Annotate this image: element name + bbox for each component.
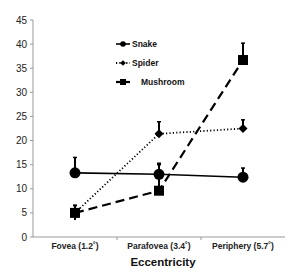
data-point-diamond	[155, 129, 164, 138]
data-point-square	[154, 186, 164, 196]
legend-item-snake: Snake	[116, 39, 157, 49]
legend-marker-square	[120, 79, 126, 85]
y-tick-label: 0	[21, 232, 27, 243]
x-tick-label: Fovea (1.2˚)	[51, 241, 98, 251]
y-tick-label: 20	[16, 135, 28, 146]
y-tick-label: 40	[16, 39, 28, 50]
legend-label: Spider	[132, 58, 159, 68]
legend-item-mushroom: Mushroom	[116, 77, 185, 87]
y-tick-label: 30	[16, 87, 28, 98]
x-tick-label: Parafovea (3.4˚)	[127, 241, 190, 251]
y-tick-label: 25	[16, 111, 28, 122]
legend-marker-circle	[120, 41, 126, 47]
y-tick-label: 5	[21, 207, 27, 218]
data-point-circle	[238, 172, 249, 183]
series-layer	[70, 43, 249, 220]
data-point-circle	[70, 167, 81, 178]
x-ticks: Fovea (1.2˚)Parafovea (3.4˚)Periphery (5…	[51, 237, 274, 251]
data-point-square	[238, 55, 248, 65]
legend-label: Snake	[132, 39, 157, 49]
legend-item-spider: Spider	[116, 58, 159, 68]
x-tick-label: Periphery (5.7˚)	[212, 241, 274, 251]
x-axis-title: Eccentricity	[130, 256, 196, 268]
legend-label: Mushroom	[141, 77, 185, 87]
y-tick-label: 15	[16, 159, 28, 170]
y-tick-label: 10	[16, 183, 28, 194]
legend: SnakeSpiderMushroom	[116, 39, 185, 87]
legend-marker-diamond	[120, 60, 126, 66]
data-point-diamond	[239, 124, 248, 133]
y-ticks: 051015202530354045	[16, 15, 33, 243]
y-tick-label: 35	[16, 63, 28, 74]
data-point-square	[70, 208, 80, 218]
line-chart: 051015202530354045 Fovea (1.2˚)Parafovea…	[0, 0, 301, 279]
y-tick-label: 45	[16, 15, 28, 26]
